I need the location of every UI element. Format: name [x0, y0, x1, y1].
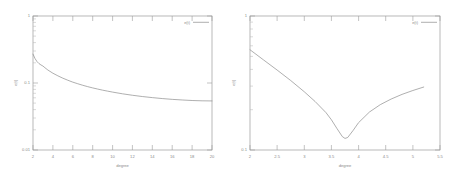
left-y-axis-ticks: [33, 16, 212, 150]
left-xtick-label-3: 8: [92, 154, 95, 159]
left-x-axis-label: degree: [116, 163, 129, 168]
left-xtick-label-7: 16: [170, 154, 175, 159]
right-x-axis-label: degree: [339, 163, 352, 168]
chart-panel-right: 0.1 1 2 2.5: [226, 0, 452, 178]
left-xtick-label-8: 18: [190, 154, 195, 159]
right-x-axis-ticks: [250, 16, 440, 150]
right-y-axis-minor-ticks: [250, 22, 253, 110]
left-plot-frame: [33, 16, 212, 150]
left-plot-svg: 0.01 0.1 1: [0, 0, 226, 178]
left-y-axis-minor-ticks: [33, 19, 36, 130]
left-x-axis-ticks: [33, 16, 212, 150]
left-xtick-label-0: 2: [32, 154, 35, 159]
right-xtick-label-0: 2: [249, 154, 252, 159]
right-xtick-label-2: 3: [303, 154, 306, 159]
left-xtick-label-6: 14: [150, 154, 155, 159]
right-xtick-label-1: 2.5: [274, 154, 280, 159]
left-ytick-label-0: 0.01: [22, 147, 31, 152]
left-xtick-label-4: 10: [110, 154, 115, 159]
left-legend-label: e(t): [184, 20, 191, 25]
right-xtick-label-3: 3.5: [329, 154, 335, 159]
right-legend-label: e(t): [412, 20, 419, 25]
right-plot-svg: 0.1 1 2 2.5: [226, 0, 452, 178]
right-legend: e(t): [412, 20, 437, 25]
right-xtick-label-4: 4: [357, 154, 360, 159]
right-data-curve: [250, 50, 424, 139]
left-xtick-label-9: 20: [210, 154, 215, 159]
left-xtick-label-1: 4: [52, 154, 55, 159]
left-xtick-label-5: 12: [130, 154, 135, 159]
right-ytick-label-1: 1: [245, 13, 248, 18]
left-legend: e(t): [184, 20, 209, 25]
left-data-curve: [33, 54, 212, 101]
right-plot-frame: [250, 16, 440, 150]
figure-canvas: 0.01 0.1 1: [0, 0, 452, 178]
left-xtick-label-2: 6: [72, 154, 75, 159]
right-xtick-label-6: 5: [412, 154, 415, 159]
right-y-axis-label: e(t): [231, 79, 236, 86]
right-ytick-label-0: 0.1: [241, 147, 247, 152]
left-y-axis-label: e(t): [13, 79, 18, 86]
left-ytick-label-1: 0.1: [24, 80, 30, 85]
chart-panel-left: 0.01 0.1 1: [0, 0, 226, 178]
right-xtick-label-5: 4.5: [383, 154, 389, 159]
right-y-axis-ticks: [250, 16, 440, 150]
left-ytick-label-2: 1: [28, 13, 31, 18]
right-xtick-label-7: 5.5: [437, 154, 443, 159]
